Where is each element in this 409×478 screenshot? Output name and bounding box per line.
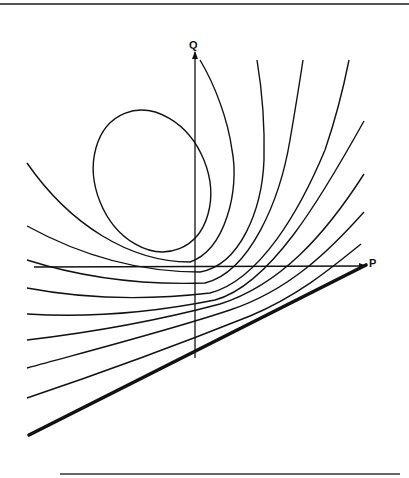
q-axis-label: Q (189, 39, 198, 51)
p-axis-label: P (369, 257, 376, 269)
p-axis (34, 266, 366, 267)
closed-orbit-ellipse (73, 92, 232, 269)
trajectory-curve-2 (27, 60, 264, 272)
boundary-line (29, 265, 366, 435)
trajectory-curve-1 (27, 60, 234, 262)
phase-diagram (0, 0, 409, 478)
